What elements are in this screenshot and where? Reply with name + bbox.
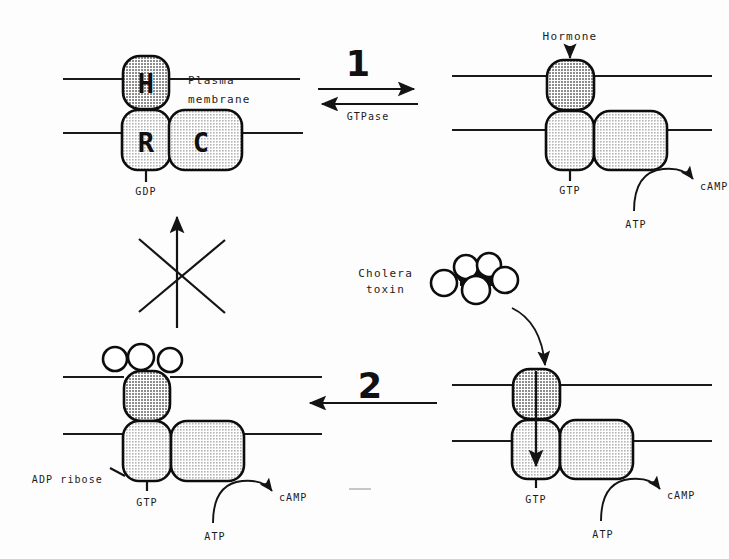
panel-bottom-right: GTP ATP cAMP	[452, 369, 712, 540]
subunit-r-shape-2	[546, 111, 594, 170]
panel-top-right: Hormone GTP ATP cAMP	[452, 30, 728, 230]
step-2-group: 2	[310, 366, 437, 406]
atp-to-camp-arc-2	[634, 169, 693, 211]
plasma-membrane-label-line1: Plasma	[188, 74, 235, 87]
atp-label-4: ATP	[204, 531, 225, 542]
subunit-c-shape-3	[560, 420, 633, 479]
subunit-c-shape-2	[594, 111, 667, 170]
subunit-h-shape-4	[124, 371, 170, 421]
hormone-label: Hormone	[543, 30, 598, 43]
step-1-group: 1 GTPase	[318, 44, 418, 122]
atp-to-camp-arc-4	[213, 481, 272, 523]
gtp-label-2: GTP	[559, 185, 580, 196]
adp-ribose-label: ADP ribose	[32, 474, 103, 485]
cholera-toxin-label-line2: toxin	[366, 283, 405, 296]
atp-to-camp-arc-3	[601, 479, 660, 521]
toxin-binding-arrow	[512, 308, 545, 365]
cholera-toxin-group: Cholera toxin	[358, 253, 545, 365]
toxin-subunit-1	[431, 270, 457, 296]
subunit-c-letter: C	[193, 127, 209, 158]
toxin-subunit-5	[462, 276, 490, 304]
subunit-c-shape-4	[171, 421, 244, 481]
plasma-membrane-label-line2: membrane	[188, 93, 251, 106]
subunit-r-letter: R	[138, 127, 155, 158]
recycle-arrow-group	[139, 217, 225, 328]
gtp-label-3: GTP	[525, 494, 546, 505]
camp-label-3: cAMP	[667, 490, 695, 501]
adp-toxin-circle-1	[103, 347, 127, 371]
gtp-label-4: GTP	[136, 497, 157, 508]
step-1-number: 1	[346, 44, 370, 84]
camp-label-4: cAMP	[279, 492, 307, 503]
step-2-number: 2	[358, 366, 382, 406]
gdp-label: GDP	[135, 186, 156, 197]
adp-toxin-circle-2	[128, 344, 154, 370]
panel-top-left: H R C GDP Plasma membrane	[63, 56, 303, 197]
gtpase-label: GTPase	[347, 111, 390, 122]
atp-label-3: ATP	[592, 529, 613, 540]
atp-label-2: ATP	[625, 219, 646, 230]
cholera-toxin-label-line1: Cholera	[358, 267, 413, 280]
panel-bottom-left: ADP ribose GTP ATP cAMP	[32, 344, 322, 542]
camp-label-2: cAMP	[700, 181, 728, 192]
toxin-subunit-4	[492, 267, 518, 293]
subunit-h-letter: H	[138, 68, 154, 99]
signaling-pathway-figure: H R C GDP Plasma membrane 1 GTPase Hormo…	[0, 0, 729, 559]
adp-toxin-circle-3	[158, 348, 182, 372]
subunit-r-shape-4	[123, 421, 171, 481]
subunit-h-shape-2	[547, 60, 594, 110]
